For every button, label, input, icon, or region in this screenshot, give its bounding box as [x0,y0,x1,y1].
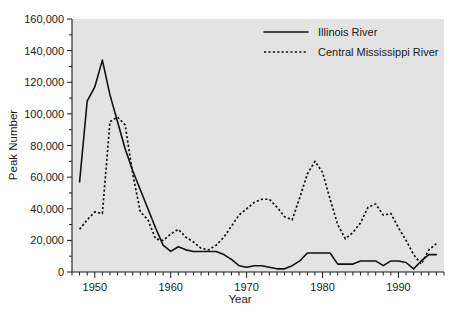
y-axis-ticks [67,19,72,272]
y-tick-label: 140,000 [24,45,64,57]
y-tick-label: 40,000 [30,203,64,215]
y-axis-title: Peak Number [7,110,19,180]
x-tick-label: 1990 [386,281,410,293]
y-tick-label: 0 [58,266,64,278]
y-tick-label: 160,000 [24,13,64,25]
y-tick-label: 20,000 [30,234,64,246]
y-tick-label: 80,000 [30,140,64,152]
line-chart: 020,00040,00060,00080,000100,000120,0001… [0,0,452,312]
y-tick-label: 100,000 [24,108,64,120]
legend-label: Illinois River [318,26,378,38]
x-tick-label: 1960 [158,281,182,293]
x-axis-ticks [72,272,444,278]
x-tick-label: 1970 [234,281,258,293]
legend-label: Central Mississippi River [318,46,439,58]
y-axis-tick-labels: 020,00040,00060,00080,000100,000120,0001… [24,13,64,278]
x-axis-title: Year [228,293,251,305]
x-tick-label: 1980 [310,281,334,293]
x-tick-label: 1950 [83,281,107,293]
x-axis-tick-labels: 19501960197019801990 [83,281,411,293]
chart-figure: 020,00040,00060,00080,000100,000120,0001… [0,0,452,312]
y-tick-label: 120,000 [24,76,64,88]
y-tick-label: 60,000 [30,171,64,183]
